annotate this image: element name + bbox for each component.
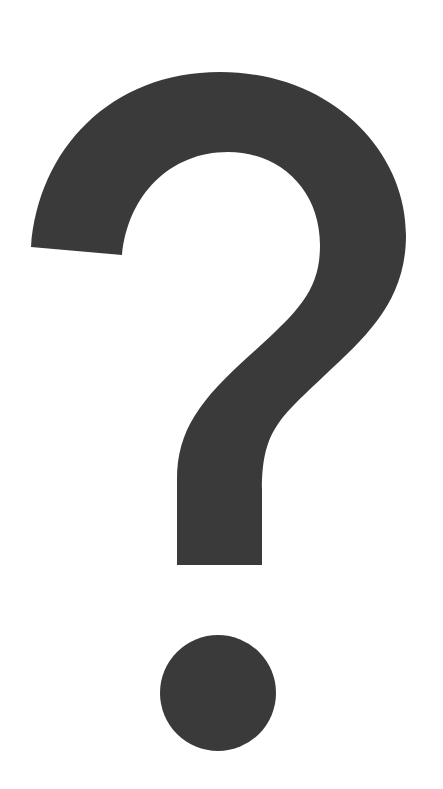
question-mark-graphic	[0, 0, 443, 789]
question-mark-icon	[0, 0, 443, 789]
question-mark-dot	[160, 635, 276, 751]
